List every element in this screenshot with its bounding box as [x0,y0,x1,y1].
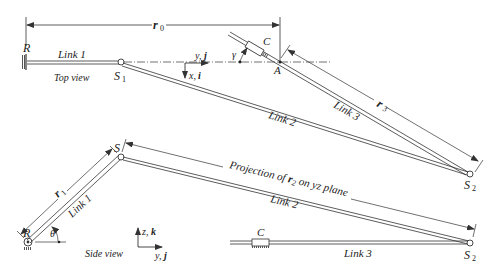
axis-k-unit-side: k [151,226,156,237]
axis-y-label-top: y, [194,50,201,61]
r1-dimension: r 1 [17,146,117,238]
r3-dimension: r 3 [281,45,483,172]
r0-subscript: 0 [160,24,164,33]
C-label-top: C [263,35,271,47]
S1-label: S [114,69,120,83]
link3-label-side: Link 3 [343,247,372,259]
mechanism-diagram: r 0 R Link 1 Top view S 1 Link 2 [0,0,492,273]
r3-subscript: 3 [381,104,389,114]
S2-subscript-side: 2 [472,254,476,263]
S1-joint [118,59,124,65]
theta-label: θ [50,228,55,239]
C-label-side: C [257,226,265,238]
R-label-top: R [22,41,31,55]
axis-i-unit-top: i [198,70,201,81]
link1-top [27,61,120,64]
link1-label-side: Link 1 [64,192,93,220]
link3-label-top: Link 3 [331,98,362,123]
r0-label: r [153,18,158,32]
A-label: A [273,64,281,76]
ground-support-top [21,54,26,70]
axis-j-unit-side: j [162,250,167,261]
S2-joint-top [467,171,473,177]
link1-side [27,155,122,243]
axis-x-label-top: x, [188,70,196,81]
axis-y-label-side: y, [154,250,161,261]
axis-j-unit-top: j [202,50,207,61]
projection-dimension: Projection of r2 on yz plane [122,139,476,237]
cylinder-C-side [252,239,269,248]
link1-label-top: Link 1 [57,48,86,60]
link2-label-side: Link 2 [269,192,300,211]
axis-z-label-side: z, [141,226,148,237]
link2-label-top: Link 2 [266,108,298,128]
S2-subscript-top: 2 [472,184,476,193]
side-view: R Link 1 r 1 θ S Link 2 [17,139,476,263]
axes-side: z, k y, j [138,226,167,261]
top-view-title: Top view [54,72,90,83]
S2-label-side: S [464,248,470,262]
projection-label: Projection of r2 on yz plane [227,158,349,200]
S2-label-top: S [464,178,470,192]
axes-top: y, j x, i [185,50,208,81]
S1-subscript: 1 [122,75,126,84]
gamma-label: γ [232,49,237,60]
S2-joint-side [467,240,473,246]
S-label-side: S [114,141,120,155]
side-view-title: Side view [85,248,123,259]
